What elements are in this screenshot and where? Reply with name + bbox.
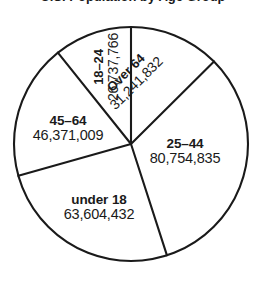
slice-value-under-18: 63,604,432 [64, 207, 135, 222]
slice-label-45-64: 45–64 46,371,009 [33, 114, 104, 143]
slice-category-25-44: 25–44 [150, 137, 221, 151]
slice-category-45-64: 45–64 [33, 114, 104, 128]
slice-category-18-24: 18–24 [92, 33, 106, 101]
pie-chart-graphic [0, 0, 266, 288]
slice-label-18-24: 18–24 26,737,766 [92, 33, 120, 101]
slice-label-25-44: 25–44 80,754,835 [150, 137, 221, 166]
slice-value-18-24: 26,737,766 [105, 33, 120, 101]
slice-value-45-64: 46,371,009 [33, 128, 104, 143]
slice-label-under-18: under 18 63,604,432 [64, 193, 135, 222]
slice-category-under-18: under 18 [64, 193, 135, 207]
pie-chart-figure: U.S. Population by Age Group Over 64 31,… [0, 0, 266, 288]
slice-value-25-44: 80,754,835 [150, 151, 221, 166]
